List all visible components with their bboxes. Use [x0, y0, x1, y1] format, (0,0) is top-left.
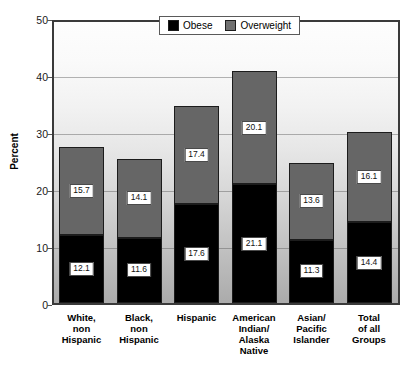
x-axis-label-line: Total [333, 312, 405, 323]
bar-segment-overweight: 14.1 [117, 159, 162, 238]
bar-segment-overweight: 17.4 [174, 106, 219, 204]
chart-legend: Obese Overweight [159, 16, 300, 35]
legend-label-obese: Obese [183, 20, 212, 31]
y-tick-label-0: 0 [26, 300, 48, 310]
y-tick-mark-0 [47, 305, 52, 306]
bar-value-label-overweight: 15.7 [69, 184, 94, 198]
y-tick-label-30: 30 [26, 129, 48, 139]
bar-white-non-hispanic[interactable]: 12.115.7 [59, 147, 104, 303]
bar-segment-overweight: 20.1 [232, 71, 277, 184]
x-axis-label-line: non [103, 323, 175, 334]
bar-value-label-obese: 17.6 [184, 247, 209, 261]
bar-value-label-obese: 11.6 [127, 263, 151, 277]
bar-total-of-all-groups[interactable]: 14.416.1 [347, 132, 392, 303]
bar-american-indian-alaska-native[interactable]: 21.120.1 [232, 71, 277, 303]
legend-swatch-obese-icon [168, 20, 179, 31]
y-tick-label-50: 50 [26, 15, 48, 25]
legend-label-overweight: Overweight [240, 20, 291, 31]
x-axis-label-line: of all [333, 323, 405, 334]
bar-value-label-obese: 12.1 [69, 262, 94, 276]
x-axis-label-total-of-all-groups: Totalof allGroups [333, 312, 405, 345]
bar-value-label-obese: 14.4 [357, 256, 382, 270]
bar-value-label-obese: 11.3 [300, 264, 324, 278]
y-tick-label-40: 40 [26, 72, 48, 82]
bar-value-label-overweight: 16.1 [357, 170, 382, 184]
bar-segment-overweight: 13.6 [289, 163, 334, 239]
x-axis-label-line: Groups [333, 334, 405, 345]
plot-area: 12.115.7 11.614.1 17.617.4 21.120.1 11.3… [52, 20, 400, 305]
x-axis-label-line: Hispanic [103, 334, 175, 345]
bar-value-label-overweight: 13.6 [299, 194, 324, 208]
bar-segment-overweight: 16.1 [347, 132, 392, 222]
legend-item-obese: Obese [168, 20, 212, 31]
bar-black-non-hispanic[interactable]: 11.614.1 [117, 159, 162, 303]
bar-segment-obese: 11.3 [289, 240, 334, 304]
bar-segment-obese: 11.6 [117, 238, 162, 303]
bar-segment-obese: 17.6 [174, 204, 219, 303]
bar-value-label-obese: 21.1 [242, 237, 267, 251]
bar-value-label-overweight: 20.1 [242, 121, 267, 135]
legend-swatch-overweight-icon [225, 20, 236, 31]
gridline-40 [54, 77, 398, 78]
x-axis-label-line: Native [218, 345, 290, 356]
bar-asian-pacific-islander[interactable]: 11.313.6 [289, 163, 334, 303]
bar-segment-obese: 14.4 [347, 222, 392, 303]
y-tick-label-10: 10 [26, 243, 48, 253]
y-tick-label-20: 20 [26, 186, 48, 196]
stacked-bar-chart: Percent 50 40 30 20 10 0 12.115.7 11.614… [0, 0, 412, 370]
bar-segment-obese: 21.1 [232, 184, 277, 303]
bar-segment-obese: 12.1 [59, 235, 104, 303]
bar-value-label-overweight: 14.1 [127, 191, 152, 205]
bar-value-label-overweight: 17.4 [184, 148, 209, 162]
bar-segment-overweight: 15.7 [59, 147, 104, 235]
bar-hispanic[interactable]: 17.617.4 [174, 106, 219, 303]
y-axis-title: Percent [9, 117, 20, 187]
legend-item-overweight: Overweight [225, 20, 291, 31]
